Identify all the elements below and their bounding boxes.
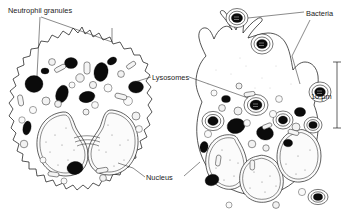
bacterium-vacuole-6 [304,117,322,133]
illustration-svg: Neutrophil granules Bacteria Lysosomes N… [0,0,358,223]
leader-nucleus-right [184,162,200,176]
right-nucleus-lobe-c [277,130,321,183]
label-nucleus: Nucleus [146,173,173,182]
label-neutrophil-granules: Neutrophil granules [8,6,72,15]
figure-canvas: Neutrophil granules Bacteria Lysosomes N… [0,0,358,223]
bacterium-vacuole-1 [251,34,273,54]
scale-bar [333,62,341,128]
label-lysosomes: Lysosomes [152,73,189,82]
left-cell [9,27,152,190]
bacterium-free-top [226,9,248,28]
bacterium-vacuole-7 [308,189,328,204]
bacterium-vacuole-4 [202,111,224,130]
leader-bacteria [248,12,304,18]
label-bacteria: Bacteria [306,9,334,18]
label-scale-bar: 10 µm [311,92,332,101]
right-nucleus-lobe-b [240,155,284,202]
right-cell [196,9,331,209]
